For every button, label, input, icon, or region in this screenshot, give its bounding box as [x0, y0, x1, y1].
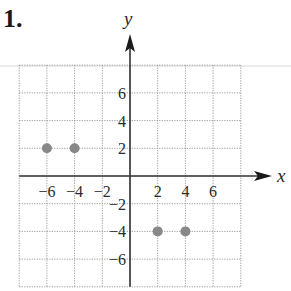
data-point — [180, 226, 190, 236]
x-tick-label: 6 — [209, 183, 217, 200]
problem-number: 1. — [3, 4, 23, 34]
y-tick-label: −6 — [109, 251, 126, 268]
y-tick-label: −4 — [109, 223, 126, 240]
x-tick-label: 2 — [154, 183, 162, 200]
x-tick-label: −4 — [66, 183, 83, 200]
y-tick-label: −2 — [109, 196, 126, 213]
y-axis-label: y — [122, 8, 133, 29]
x-tick-label: 4 — [181, 183, 189, 200]
data-point — [42, 143, 52, 153]
y-tick-label: 6 — [118, 85, 126, 102]
coordinate-plane: xy −6−4−2246642−2−4−6 — [0, 0, 291, 291]
x-axis-label: x — [276, 165, 286, 186]
data-point — [70, 143, 80, 153]
data-point — [153, 226, 163, 236]
y-tick-label: 2 — [118, 140, 126, 157]
y-tick-label: 4 — [118, 113, 126, 130]
graph-figure: 1. xy −6−4−2246642−2−4−6 — [0, 0, 291, 291]
axes: xy — [19, 8, 286, 287]
x-tick-label: −6 — [38, 183, 55, 200]
